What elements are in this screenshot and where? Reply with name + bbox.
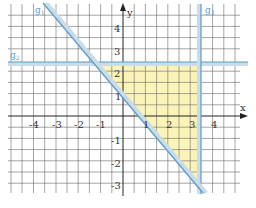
x-tick: 1 bbox=[143, 119, 149, 130]
y-axis-arrow-icon bbox=[120, 3, 126, 11]
y-tick: -2 bbox=[111, 158, 121, 169]
x-axis-arrow-icon bbox=[240, 113, 248, 119]
x-tick: -1 bbox=[96, 119, 106, 130]
x-tick: 4 bbox=[211, 119, 217, 130]
y-axis-label: y bbox=[126, 7, 133, 18]
x-axis-label: x bbox=[240, 102, 246, 113]
y-tick: 2 bbox=[114, 68, 120, 79]
figure-svg: g1 g2 g3 x y -4 -3 -2 -1 1 2 3 4 4 3 2 1… bbox=[0, 0, 256, 208]
y-tick: 1 bbox=[115, 91, 121, 102]
y-tick: 4 bbox=[114, 23, 120, 34]
y-tick: 3 bbox=[114, 46, 120, 57]
y-tick: -3 bbox=[111, 180, 121, 191]
x-tick: 2 bbox=[166, 119, 172, 130]
g2-label: g2 bbox=[10, 50, 20, 61]
x-tick: -3 bbox=[52, 119, 62, 130]
x-tick: 3 bbox=[189, 119, 195, 130]
g3-label: g3 bbox=[205, 5, 215, 16]
x-tick: -4 bbox=[29, 119, 39, 130]
y-tick: -1 bbox=[111, 135, 121, 146]
coordinate-figure: g1 g2 g3 x y -4 -3 -2 -1 1 2 3 4 4 3 2 1… bbox=[0, 0, 256, 208]
g1-label: g1 bbox=[35, 5, 45, 16]
x-tick: -2 bbox=[74, 119, 84, 130]
